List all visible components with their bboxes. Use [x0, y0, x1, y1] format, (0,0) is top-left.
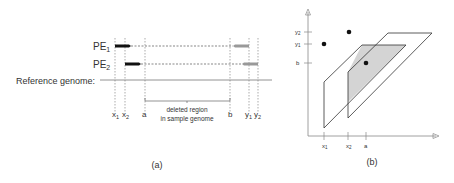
y-tick-y2: y2 — [295, 29, 301, 36]
point-deletion — [364, 61, 369, 66]
pe2-reverse-arrow — [242, 63, 244, 66]
pe1-forward-read — [115, 45, 129, 48]
point-pe2 — [347, 30, 352, 35]
deleted-region-bracket — [145, 98, 230, 103]
pe2-forward-arrow — [139, 63, 141, 66]
label-b: b — [228, 110, 233, 119]
x-tick-x1: x1 — [322, 143, 328, 150]
figure: PE1 PE2 Reference genome: deleted region… — [0, 0, 454, 183]
pe1-reverse-arrow — [233, 45, 235, 48]
y-tick-y1: y1 — [295, 41, 301, 48]
x-tick-a: a — [364, 143, 368, 149]
deleted-region-label-2: in sample genome — [160, 115, 213, 123]
pe2-forward-read — [125, 63, 139, 66]
x-tick-x2: x2 — [346, 143, 352, 150]
point-pe1 — [322, 42, 327, 47]
label-x1: x1 — [112, 110, 119, 120]
pe1-forward-arrow — [129, 45, 131, 48]
label-y1: y1 — [245, 110, 252, 120]
panel-b: y2 y1 b x1 x2 a (b) — [295, 9, 439, 167]
label-y2: y2 — [254, 110, 261, 120]
pe2-reverse-read — [244, 63, 258, 66]
caption-b: (b) — [367, 157, 378, 167]
pe2-label: PE2 — [93, 59, 110, 71]
label-a: a — [142, 110, 147, 119]
y-tick-b: b — [296, 60, 300, 66]
caption-a: (a) — [152, 160, 163, 170]
pe1-reverse-read — [235, 45, 249, 48]
label-x2: x2 — [122, 110, 129, 120]
reference-genome-label: Reference genome: — [16, 76, 95, 86]
deleted-region-label-1: deleted region — [166, 106, 208, 114]
pe1-label: PE1 — [93, 41, 110, 53]
panel-a: PE1 PE2 Reference genome: deleted region… — [16, 38, 272, 170]
